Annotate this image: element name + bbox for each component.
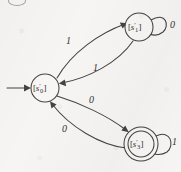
state-subscript-0: 0 [40,87,43,94]
edge-label-s3-to-s0: 0 [62,124,67,134]
state-label-s0: [s′0] [33,84,46,93]
state-subscript-1: 1 [135,26,138,33]
diagram-canvas [0,0,181,172]
start-arrow [7,85,31,92]
edge-label-self-loop-s1: 0 [170,20,175,30]
edge-label-self-loop-s3: 1 [172,137,177,147]
state-label-s3: [s′3] [130,140,143,149]
edge-label-s1-to-s0: 1 [93,63,98,73]
state-subscript-3: 3 [137,143,140,150]
state-label-s1: [s′1] [128,23,141,32]
state-transition-diagram: [s′0] [s′1] [s′3] 1 1 0 0 0 1 [0,0,181,172]
state-label-s3-text: [s′3] [130,139,143,149]
edge-label-s0-to-s1: 1 [66,36,71,46]
edge-label-s0-to-s3: 0 [89,95,94,105]
state-label-s0-text: [s′0] [33,83,46,93]
state-label-s1-text: [s′1] [128,22,141,32]
